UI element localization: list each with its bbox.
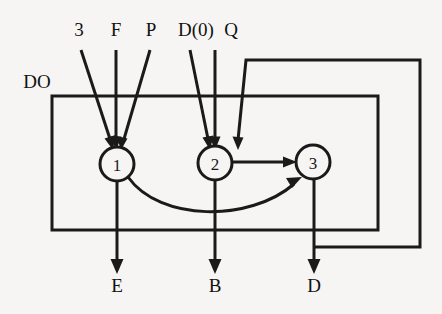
input-label-p: P xyxy=(146,19,157,40)
feedback-arrowhead-icon xyxy=(233,137,244,151)
input-label-q: Q xyxy=(224,19,238,40)
output-arrowhead-b-icon xyxy=(209,259,222,274)
input-label-d0: D(0) xyxy=(178,19,214,41)
diagram-canvas: 1 2 3 3 F P D(0) Q E B D DO xyxy=(0,0,442,314)
edge-1-to-3-arrowhead-icon xyxy=(286,177,302,188)
place-node-3-label: 3 xyxy=(309,154,318,173)
input-label-f: F xyxy=(111,19,122,40)
output-label-e: E xyxy=(111,275,123,296)
output-arrowhead-e-icon xyxy=(111,259,124,274)
place-node-1-label: 1 xyxy=(113,156,122,175)
petri-net-diagram: 1 2 3 3 F P D(0) Q E B D DO xyxy=(0,0,442,314)
edge-1-to-3-curve xyxy=(128,177,294,212)
place-node-2-label: 2 xyxy=(211,155,220,174)
output-arrowhead-d-icon xyxy=(308,259,321,274)
output-label-b: B xyxy=(209,275,222,296)
module-label-do: DO xyxy=(23,71,50,92)
input-label-3: 3 xyxy=(74,19,84,40)
output-label-d: D xyxy=(307,275,321,296)
